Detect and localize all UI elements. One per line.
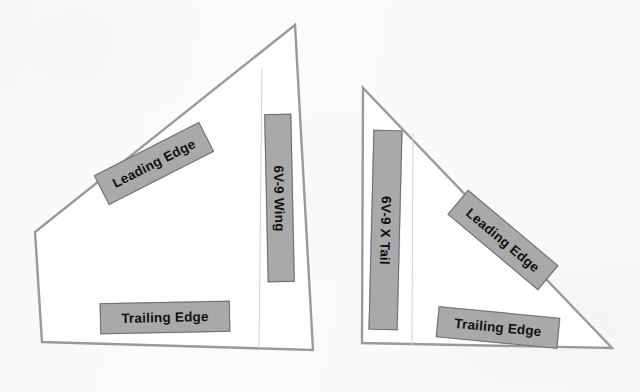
template-sheet: Leading Edge Trailing Edge 6V-9 Wing 6V-… <box>0 0 640 392</box>
x-tail-trailing-edge-text: Trailing Edge <box>454 316 542 339</box>
x-tail-name-text: 6V-9 X Tail <box>377 195 394 264</box>
wing-name-label: 6V-9 Wing <box>264 114 295 283</box>
wing-name-text: 6V-9 Wing <box>271 165 287 232</box>
wing-trailing-edge-label: Trailing Edge <box>100 301 231 335</box>
wing-trailing-edge-text: Trailing Edge <box>121 309 209 326</box>
x-tail-name-label: 6V-9 X Tail <box>369 130 403 331</box>
